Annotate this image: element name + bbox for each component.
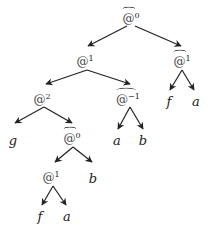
application-node: @1 bbox=[76, 55, 93, 68]
tree-edge-arrow bbox=[73, 147, 92, 162]
application-node: @0 bbox=[63, 132, 80, 145]
node-symbol: @ bbox=[173, 55, 185, 69]
hat-accent-icon bbox=[173, 50, 186, 56]
node-symbol: g bbox=[9, 133, 17, 148]
tree-edge-arrow bbox=[182, 70, 194, 90]
leaf-node-a: a bbox=[113, 134, 121, 147]
node-symbol: @ bbox=[122, 12, 134, 26]
tree-edge-arrow bbox=[87, 70, 130, 84]
tree-edge-arrow bbox=[53, 186, 66, 205]
node-symbol: @ bbox=[42, 171, 54, 185]
leaf-node-a: a bbox=[192, 95, 200, 108]
leaf-node-b: b bbox=[139, 134, 147, 147]
node-symbol: b bbox=[89, 171, 97, 186]
node-symbol: f bbox=[38, 209, 43, 224]
application-node: @1 bbox=[173, 55, 190, 68]
hat-accent-icon bbox=[116, 88, 136, 94]
tree-edge-arrow bbox=[44, 107, 72, 123]
leaf-node-g: g bbox=[9, 134, 17, 147]
tree-edge-arrow bbox=[135, 26, 181, 46]
leaf-node-a: a bbox=[63, 210, 71, 223]
node-symbol: f bbox=[167, 94, 172, 109]
tree-edge-arrow bbox=[118, 107, 130, 129]
node-symbol: @ bbox=[33, 93, 45, 107]
node-superscript: 1 bbox=[54, 170, 59, 179]
tree-edge-arrow bbox=[42, 186, 53, 205]
node-superscript: 1 bbox=[88, 54, 93, 63]
tree-edges bbox=[0, 0, 207, 226]
node-symbol: @ bbox=[63, 132, 75, 146]
tree-edge-arrow bbox=[130, 107, 143, 129]
node-symbol: @ bbox=[116, 93, 128, 107]
node-symbol: b bbox=[139, 133, 147, 148]
leaf-node-f: f bbox=[167, 95, 172, 108]
tree-edge-arrow bbox=[170, 70, 182, 90]
application-node: @−1 bbox=[116, 93, 140, 106]
application-node: @0 bbox=[122, 12, 139, 25]
tree-edge-arrow bbox=[88, 26, 127, 46]
tree-edge-arrow bbox=[55, 147, 73, 162]
application-node: @2 bbox=[33, 93, 50, 106]
node-symbol: a bbox=[192, 94, 200, 109]
node-symbol: a bbox=[63, 209, 71, 224]
hat-accent-icon bbox=[63, 127, 76, 133]
node-symbol: a bbox=[113, 133, 121, 148]
leaf-node-f: f bbox=[38, 210, 43, 223]
tree-edge-arrow bbox=[15, 107, 44, 123]
tree-edge-arrow bbox=[46, 70, 87, 84]
application-node: @1 bbox=[42, 171, 59, 184]
node-superscript: 2 bbox=[45, 92, 50, 101]
hat-accent-icon bbox=[122, 7, 135, 13]
leaf-node-b: b bbox=[89, 172, 97, 185]
node-symbol: @ bbox=[76, 55, 88, 69]
